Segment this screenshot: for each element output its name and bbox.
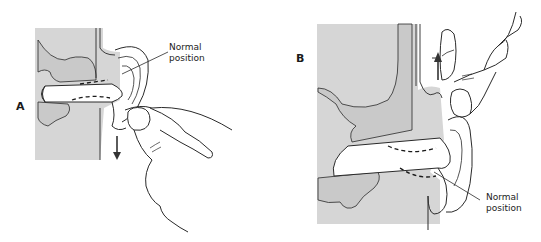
thumb: [450, 89, 471, 117]
callout-normal-position-a: Normal position: [169, 42, 205, 64]
callout-leader-b: [434, 172, 480, 200]
ear-canal: [43, 84, 123, 102]
callout-text-line2: position: [486, 203, 522, 214]
pinna: [446, 117, 472, 213]
callout-text-line1: Normal: [486, 192, 522, 203]
panel-a-illustration: [0, 0, 270, 242]
thumb: [128, 108, 150, 131]
callout-text-line2: position: [169, 53, 205, 64]
arrow-down-icon: [113, 136, 121, 160]
panel-label-b: B: [296, 52, 304, 65]
callout-text-line1: Normal: [169, 42, 205, 53]
callout-leader-a: [122, 52, 168, 74]
panel-b: B Normal position: [270, 0, 541, 242]
panel-label-a: A: [16, 100, 25, 113]
finger: [440, 29, 456, 80]
callout-normal-position-b: Normal position: [486, 192, 522, 214]
panel-a: A Normal position: [0, 0, 270, 242]
